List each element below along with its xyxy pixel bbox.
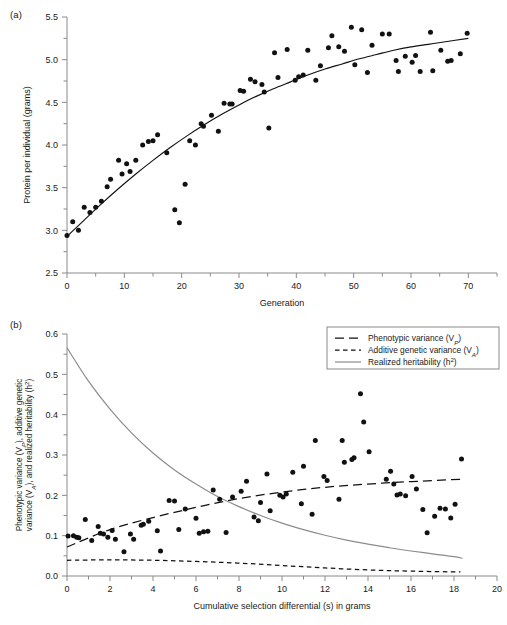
panel-b-x-tick-label: 18 [449,584,459,594]
panel-b-data-point [224,530,229,535]
panel-a-data-point [326,45,331,50]
panel-a-y-tick-label: 5.0 [45,55,58,65]
panel-b-data-point [167,498,172,503]
panel-b-data-point [101,532,106,537]
panel-a-data-point [275,75,280,80]
panel-b-x-tick-label: 12 [320,584,330,594]
panel-b-data-point [155,528,160,533]
panel-a-data-point [128,169,133,174]
panel-a-data-point [193,143,198,148]
panel-a-data-point [146,139,151,144]
panel-a-data-point [394,58,399,63]
panel-b-data-point [211,488,216,493]
panel-b-data-point [131,537,136,542]
panel-a-data-point [201,124,206,129]
panel-a-data-point [216,129,221,134]
panel-b-data-point [384,477,389,482]
panel-b-data-point [388,469,393,474]
panel-b-y-tick-label: 0.5 [45,370,58,380]
panel-a-x-tick-label: 70 [463,281,473,291]
panel-b-x-tick-label: 14 [363,584,373,594]
figure-container: (a) 0102030405060702.53.03.54.04.55.05.5… [0,0,507,625]
panel-a-data-point [430,68,435,73]
panel-b-data-point [313,438,318,443]
panel-b-realized-heritability [67,348,463,559]
panel-b-data-point [361,419,366,424]
panel-b-x-tick-label: 4 [150,584,155,594]
panel-b-x-axis-title: Cumulative selection differential (s) in… [194,601,371,611]
panel-b-data-point [420,507,425,512]
panel-b-data-point [443,507,448,512]
panel-b-data-point [264,471,269,476]
legend-label-2: Realized heritability (h2) [368,356,457,368]
panel-b-data-point [301,464,306,469]
panel-a-data-point [87,210,92,215]
panel-a-y-tick-label: 3.0 [45,226,58,236]
panel-b-x-tick-label: 2 [107,584,112,594]
panel-b-data-point [205,529,210,534]
panel-b-data-point [83,517,88,522]
panel-a-data-point [336,44,341,49]
panel-b: (b) 024681012141618200.00.10.20.30.40.50… [0,312,507,625]
panel-b-x-tick-label: 0 [64,584,69,594]
panel-b-data-point [448,515,453,520]
panel-b-data-point [258,500,263,505]
panel-b-data-point [176,527,181,532]
panel-b-data-point [414,486,419,491]
panel-a-data-point [342,49,347,54]
panel-b-data-point [310,512,315,517]
panel-b-y-tick-label: 0.6 [45,329,58,339]
panel-a-data-point [82,205,87,210]
panel-b-data-point [146,519,151,524]
panel-a-data-point [116,158,121,163]
panel-b-data-point [76,535,81,540]
panel-a-data-point [120,172,125,177]
panel-a-data-point [359,27,364,32]
panel-b-data-point [89,538,94,543]
panel-a-data-point [253,79,258,84]
panel-a-y-tick-label: 4.5 [45,98,58,108]
panel-a-data-point [65,233,70,238]
panel-b-x-tick-label: 16 [406,584,416,594]
panel-a-data-point [465,31,470,36]
panel-b-data-point [141,522,146,527]
panel-a-x-tick-label: 10 [119,281,129,291]
panel-a-data-point [313,78,318,83]
panel-a-data-point [285,47,290,52]
panel-b-data-point [453,502,458,507]
panel-b-data-point [244,479,249,484]
panel-a-data-point [222,101,227,106]
panel-a-data-point [172,207,177,212]
panel-a-data-point [70,219,75,224]
panel-a-data-point [396,69,401,74]
panel-b-data-point [438,506,443,511]
panel-b-x-tick-label: 20 [492,584,502,594]
panel-b-phenotypic-variance [67,479,463,547]
panel-b-y-axis-title-line2: variance (VA), and realized heritability… [23,379,37,532]
panel-b-data-point [230,494,235,499]
panel-b-data-point [128,532,133,537]
panel-b-data-point [252,515,257,520]
panel-b-data-point [105,535,110,540]
panel-a-data-point [266,125,271,130]
panel-b-y-tick-label: 0.1 [45,531,58,541]
panel-b-data-point [197,531,202,536]
panel-a-data-point [183,182,188,187]
panel-b-data-point [268,508,273,513]
panel-b-y-axis-title: Phenotypic variance (VP), additive genet… [15,379,37,532]
panel-a-data-point [76,228,81,233]
panel-a-data-point [262,90,267,95]
panel-b-data-point [96,524,101,529]
panel-a-data-point [318,63,323,68]
panel-b-data-point [66,534,71,539]
panel-b-plot: 024681012141618200.00.10.20.30.40.50.6Cu… [0,312,507,625]
panel-b-data-point [403,493,408,498]
panel-b-data-point [336,497,341,502]
panel-a-x-tick-label: 60 [406,281,416,291]
panel-b-data-point [459,457,464,462]
panel-a-data-point [259,82,264,87]
panel-a-data-point [241,89,246,94]
panel-b-x-tick-label: 6 [193,584,198,594]
panel-a-plot: 0102030405060702.53.03.54.04.55.05.5Gene… [0,0,507,312]
panel-b-data-point [110,528,115,533]
